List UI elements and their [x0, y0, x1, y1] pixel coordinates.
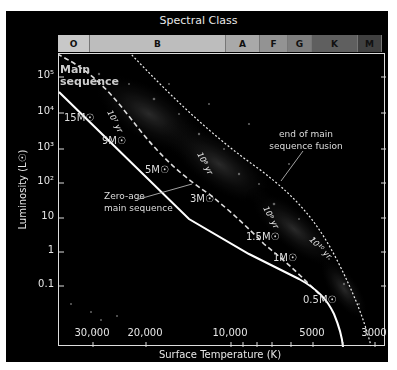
zams-label-line2: main sequence: [104, 202, 173, 214]
xtick-3000: 3000: [344, 327, 397, 338]
mass-label-15: 15M☉: [64, 112, 94, 123]
xtick-30000: 30,000: [62, 327, 122, 338]
xtick-5000: 5000: [282, 327, 342, 338]
spectral-class-m: M: [358, 35, 382, 52]
spectral-class-f: F: [260, 35, 288, 52]
ytick-1e4: 10⁴: [14, 105, 54, 116]
mass-label-3: 3M☉: [190, 193, 214, 204]
zams-label: Zero-age main sequence: [104, 190, 173, 214]
spectral-class-b: B: [90, 35, 226, 52]
main-sequence-label: Main sequence: [60, 64, 119, 88]
end-fusion-label: end of main sequence fusion: [269, 128, 343, 152]
spectral-class-a: A: [226, 35, 260, 52]
mass-label-0.5: 0.5M☉: [303, 294, 337, 305]
mass-label-5: 5M☉: [145, 164, 169, 175]
mass-label-1: 1M☉: [273, 252, 297, 263]
y-axis-label: Luminosity (L☉): [17, 130, 28, 250]
spectral-class-k: K: [312, 35, 358, 52]
spectral-class-g: G: [288, 35, 312, 52]
mass-label-1.5: 1.5M☉: [246, 231, 280, 242]
x-axis-label: Surface Temperature (K): [0, 349, 397, 360]
end-fusion-label-line2: sequence fusion: [269, 140, 343, 152]
mass-label-9: 9M☉: [102, 135, 126, 146]
zams-label-line1: Zero-age: [104, 190, 173, 202]
end-fusion-pointer: [281, 151, 303, 181]
main-sequence-label-line2: sequence: [60, 76, 119, 88]
xtick-10000: 10,000: [200, 327, 260, 338]
xtick-20000: 20,000: [115, 327, 175, 338]
ytick-1e5: 10⁵: [14, 69, 54, 80]
spectral-class-title: Spectral Class: [0, 14, 397, 27]
spectral-class-bar: OBAFGKM: [58, 35, 382, 52]
spectral-class-o: O: [58, 35, 90, 52]
end-fusion-label-line1: end of main: [269, 128, 343, 140]
ytick-0.1: 0.1: [14, 278, 54, 289]
